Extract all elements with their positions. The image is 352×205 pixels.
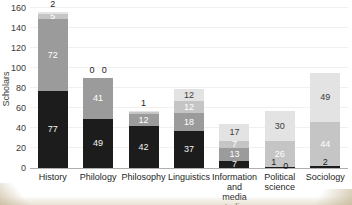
segment-value-label: 18	[184, 118, 194, 127]
segment-dark-gray: 41	[83, 78, 113, 119]
segment-value-label: 44	[320, 140, 330, 149]
segment-value-label: 37	[184, 145, 194, 154]
bar-column-linguistics: 37181212	[166, 8, 211, 168]
segment-dark-gray: 18	[174, 113, 204, 131]
outside-labels-above: 00	[77, 66, 119, 75]
segment-value-label: 30	[275, 122, 285, 131]
segment-value-label: 77	[48, 125, 58, 134]
segment-pale-gray: 12	[174, 89, 204, 101]
bar-column-history: 777252	[30, 8, 75, 168]
category-label-line: science	[257, 182, 302, 192]
small-segment-value-label: 0	[102, 66, 107, 75]
segment-pale-gray: 17	[219, 124, 249, 141]
outside-labels-above: 2	[32, 0, 74, 9]
segment-dark-gray: 12	[129, 114, 159, 126]
segment-pale-gray: 49	[310, 73, 340, 122]
segment-value-label: 42	[139, 143, 149, 152]
segment-black: 49	[83, 119, 113, 168]
bars-layer: 7772524941004212137181212713717263010444…	[30, 8, 348, 168]
y-axis-tick-labels: 020406080100120140160	[0, 8, 26, 168]
y-tick-label: 60	[0, 103, 26, 113]
small-segment-value-label: 0	[90, 66, 95, 75]
bar-column-information-and-media-studies: 713717	[212, 8, 257, 168]
category-label-sociology: Sociology	[303, 172, 348, 205]
segment-value-label: 72	[48, 51, 58, 60]
small-segment-value-label: 1	[271, 158, 276, 167]
stacked-bar: 713717	[219, 8, 249, 168]
y-tick-label: 80	[0, 83, 26, 93]
small-segment-value-label: 2	[323, 158, 328, 167]
segment-dark-gray: 72	[38, 19, 68, 91]
segment-dark-gray: 13	[219, 148, 249, 161]
segment-value-label: 41	[93, 94, 103, 103]
small-segment-value-label: 0	[283, 162, 288, 171]
segment-light-gray: 5	[38, 14, 68, 19]
bar-column-philosophy: 42121	[121, 8, 166, 168]
segment-black: 37	[174, 131, 204, 168]
segment-value-label: 17	[229, 128, 239, 137]
stacked-bar-chart: Scholars 020406080100120140160 777252494…	[0, 0, 352, 205]
category-label-political-science: Politicalscience	[257, 172, 302, 205]
segment-value-label: 13	[229, 150, 239, 159]
category-label-philology: Philology	[75, 172, 120, 205]
y-tick-label: 40	[0, 123, 26, 133]
category-label-line: Sociology	[303, 172, 348, 182]
segment-value-label: 7	[232, 160, 237, 169]
segment-light-gray	[129, 112, 159, 114]
category-label-line: Linguistics	[166, 172, 211, 182]
segment-pale-gray: 30	[265, 111, 295, 141]
stacked-bar: 494100	[83, 8, 113, 168]
outside-labels-above: 1	[123, 99, 165, 108]
segment-value-label: 12	[184, 91, 194, 100]
category-label-line: media studies	[212, 192, 257, 205]
segment-black: 42	[129, 126, 159, 168]
stacked-bar: 44492	[310, 8, 340, 168]
segment-black	[265, 167, 295, 168]
y-tick-label: 140	[0, 23, 26, 33]
segment-black: 7	[219, 161, 249, 168]
segment-pale-gray	[129, 111, 159, 112]
small-segment-value-label: 2	[50, 0, 55, 9]
plot-area: 7772524941004212137181212713717263010444…	[30, 8, 348, 169]
stacked-bar: 777252	[38, 8, 68, 168]
category-label-line: Information and	[212, 172, 257, 192]
y-tick-label: 20	[0, 143, 26, 153]
y-tick-label: 100	[0, 63, 26, 73]
y-tick-label: 120	[0, 43, 26, 53]
category-label-line: Philology	[75, 172, 120, 182]
outside-labels-below: 10	[259, 158, 301, 167]
small-segment-value-label: 1	[141, 99, 146, 108]
category-label-line: History	[30, 172, 75, 182]
category-label-philosophy: Philosophy	[121, 172, 166, 205]
stacked-bar: 37181212	[174, 8, 204, 168]
category-label-line: Philosophy	[121, 172, 166, 182]
category-label-history: History	[30, 172, 75, 205]
segment-light-gray: 7	[219, 141, 249, 148]
page-scan-corner-left	[0, 183, 30, 205]
bar-column-political-science: 263010	[257, 8, 302, 168]
y-tick-label: 160	[0, 3, 26, 13]
segment-black: 77	[38, 91, 68, 168]
segment-value-label: 49	[320, 93, 330, 102]
segment-value-label: 7	[232, 140, 237, 149]
y-tick-label: 0	[0, 163, 26, 173]
segment-pale-gray	[38, 12, 68, 14]
stacked-bar: 263010	[265, 8, 295, 168]
segment-value-label: 49	[93, 139, 103, 148]
segment-value-label: 12	[139, 116, 149, 125]
category-label-information-and-media-studies: Information andmedia studies	[212, 172, 257, 205]
category-label-line: Political	[257, 172, 302, 182]
category-label-linguistics: Linguistics	[166, 172, 211, 205]
segment-value-label: 12	[184, 103, 194, 112]
x-axis-category-labels: HistoryPhilologyPhilosophyLinguisticsInf…	[30, 172, 348, 205]
outside-labels-below: 2	[304, 158, 346, 167]
bar-column-philology: 494100	[75, 8, 120, 168]
bar-column-sociology: 44492	[303, 8, 348, 168]
stacked-bar: 42121	[129, 8, 159, 168]
segment-light-gray: 12	[174, 101, 204, 113]
